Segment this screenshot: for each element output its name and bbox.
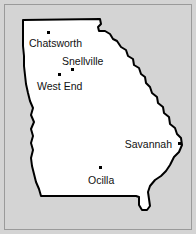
georgia-map-svg: Chatsworth Snellville West End Savannah … — [0, 0, 196, 234]
city-label-west-end: West End — [37, 80, 82, 92]
city-dot-ocilla — [99, 166, 102, 169]
city-label-savannah: Savannah — [125, 138, 172, 150]
city-label-snellville: Snellville — [62, 55, 104, 67]
city-label-chatsworth: Chatsworth — [29, 37, 82, 49]
city-dot-west-end — [58, 73, 61, 76]
city-dot-savannah — [178, 142, 181, 145]
city-label-ocilla: Ocilla — [88, 174, 114, 186]
city-dot-snellville — [71, 68, 74, 71]
city-dot-chatsworth — [47, 31, 50, 34]
map-figure: Chatsworth Snellville West End Savannah … — [0, 0, 196, 234]
